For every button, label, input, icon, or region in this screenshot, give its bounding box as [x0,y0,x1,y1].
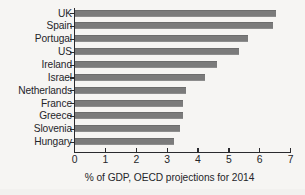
plot-area: UK Spain Portugal US Ireland Israel Neth… [0,0,305,195]
bar-spain[interactable] [75,22,273,29]
bar-uk[interactable] [75,10,276,17]
x-axis-tick [228,148,229,153]
y-axis-line [74,8,75,153]
x-axis-tick [74,148,75,153]
bar-us[interactable] [75,48,239,55]
bar-hungary[interactable] [75,138,174,145]
x-axis-tick [105,148,106,153]
bar-netherlands[interactable] [75,87,186,94]
y-axis-tick-label: Ireland [42,60,72,70]
x-axis-tick [197,148,198,153]
x-axis-tick [136,148,137,153]
x-axis-title: % of GDP, OECD projections for 2014 [0,173,305,183]
y-axis-tick-label: France [41,99,72,109]
x-axis-tick-label: 1 [95,155,117,165]
bar-ireland[interactable] [75,61,217,68]
x-axis-tick [167,148,168,153]
x-axis-tick-label: 4 [187,155,209,165]
bar-greece[interactable] [75,112,183,119]
y-axis-tick-label: Portugal [35,34,72,44]
y-axis-tick-label: Spain [46,21,72,31]
bar-chart-figure: UK Spain Portugal US Ireland Israel Neth… [0,0,305,195]
y-axis-tick-label: Greece [39,111,72,121]
scan-artifact [0,189,305,195]
x-axis-tick [259,148,260,153]
x-axis-tick-label: 6 [249,155,271,165]
y-axis-tick-label: Slovenia [34,124,72,134]
bar-slovenia[interactable] [75,125,180,132]
y-axis-tick-label: Israel [48,73,72,83]
x-axis-tick [290,148,291,153]
y-axis-tick-label: Hungary [34,137,72,147]
bar-israel[interactable] [75,74,205,81]
x-axis-tick-label: 3 [156,155,178,165]
x-axis-tick-label: 7 [280,155,302,165]
y-axis-tick-label: Netherlands [18,86,72,96]
x-axis-tick-label: 2 [125,155,147,165]
x-axis-tick-label: 5 [218,155,240,165]
bar-france[interactable] [75,100,183,107]
x-axis-tick-label: 0 [64,155,86,165]
bar-portugal[interactable] [75,35,248,42]
